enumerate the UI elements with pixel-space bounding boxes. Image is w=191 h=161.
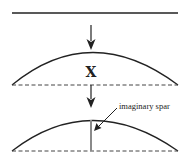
arch-curve [12, 121, 178, 152]
imaginary-spar-label: imaginary spar [119, 101, 170, 111]
callout-pointer [97, 108, 117, 128]
x-label: X [86, 64, 97, 80]
transformation-diagram: X imaginary spar [0, 0, 191, 161]
